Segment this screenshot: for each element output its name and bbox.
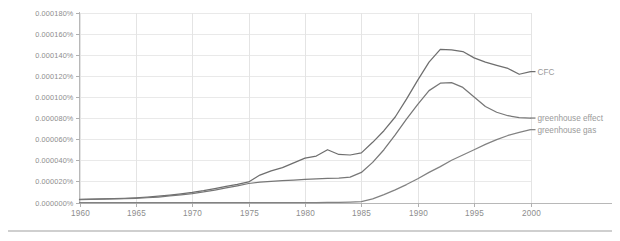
x-tick-label: 1965: [127, 209, 146, 218]
y-tick-label: 0.000080%: [35, 114, 74, 123]
y-tick-labels: 0.000000%0.000020%0.000040%0.000060%0.00…: [35, 9, 74, 208]
x-tick-label: 1970: [183, 209, 202, 218]
x-tick-label: 1980: [296, 209, 315, 218]
y-tick-label: 0.000020%: [35, 177, 74, 186]
grid-vertical: [81, 13, 532, 203]
y-tick-label: 0.000180%: [35, 9, 74, 18]
x-tick-label: 1985: [352, 209, 371, 218]
x-tick-labels: 196019651970197519801985199019952000: [71, 209, 541, 218]
x-tick-label: 1995: [465, 209, 484, 218]
series-legend-label: greenhouse effect: [538, 114, 604, 123]
y-tick-label: 0.000140%: [35, 51, 74, 60]
x-tick-label: 1990: [409, 209, 428, 218]
line-chart: 0.000000%0.000020%0.000040%0.000060%0.00…: [0, 0, 620, 241]
x-tick-label: 1960: [71, 209, 90, 218]
series-inline-legend: CFCgreenhouse effectgreenhouse gas: [531, 68, 604, 135]
y-axis: [76, 12, 80, 204]
series-legend-label: CFC: [538, 68, 555, 77]
series-legend-label: greenhouse gas: [538, 126, 597, 135]
x-tick-label: 1975: [240, 209, 259, 218]
y-tick-label: 0.000160%: [35, 30, 74, 39]
y-tick-label: 0.000100%: [35, 93, 74, 102]
y-tick-label: 0.000000%: [35, 199, 74, 208]
y-tick-label: 0.000040%: [35, 156, 74, 165]
chart-container: 0.000000%0.000020%0.000040%0.000060%0.00…: [0, 0, 620, 241]
y-tick-label: 0.000060%: [35, 135, 74, 144]
x-tick-label: 2000: [522, 209, 541, 218]
y-tick-label: 0.000120%: [35, 72, 74, 81]
